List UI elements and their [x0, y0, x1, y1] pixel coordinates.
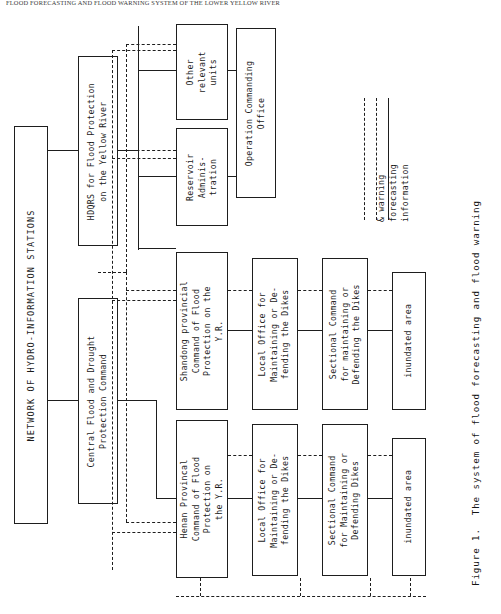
- box-sectional-command-henan: Sectional Command for Maintaining or Def…: [322, 424, 368, 576]
- box-sectional-command-shandong-label: Sectional Command for maintaining or Def…: [328, 284, 363, 384]
- box-network-of-hydro-information-stations: NETWORK OF HYDRO-INFORMATION STATIONS: [14, 126, 48, 524]
- box-inundated-area-henan: inundated area: [392, 438, 426, 576]
- warning-branch-shandong: [112, 300, 176, 301]
- connector-central-to-trunk: [118, 400, 156, 401]
- connector-shandong-to-local-office: [228, 330, 252, 331]
- warning-branch-henan: [112, 532, 176, 533]
- connector-sectional-to-inundated-henan: [368, 498, 392, 499]
- forecast-local-to-sectional-henan: [298, 455, 322, 456]
- forecast-sectional-to-inundated-shandong: [368, 290, 392, 291]
- connector-henan-to-local-office: [228, 498, 252, 499]
- box-inundated-area-shandong-label: inundated area: [403, 304, 415, 378]
- box-local-office-shandong-label: Local Office for Maintaining or De- fend…: [258, 286, 293, 381]
- box-hdqrs-label: HDQRS for Flood Protection on the Yellow…: [87, 82, 110, 219]
- connector-local-office-to-sectional-shandong: [298, 330, 322, 331]
- warning-drop-henan: [370, 578, 371, 596]
- connector-trunk-to-henan: [156, 498, 176, 499]
- box-reservoir-admin-label: Reservoir Adminis- tration: [185, 153, 220, 201]
- legend: information forecasting & warning: [344, 96, 424, 232]
- legend-label-warning: & warning: [376, 174, 386, 222]
- forecast-branch-henan: [126, 522, 176, 523]
- box-shandong-command-label: Shandong provincial Command of Flood Pro…: [179, 281, 225, 381]
- box-reservoir-administration: Reservoir Adminis- tration: [176, 128, 228, 226]
- forecast-branch-shandong: [126, 290, 176, 291]
- forecast-branch-other-units: [126, 44, 176, 45]
- connector-network-to-hdqrs: [48, 150, 78, 151]
- connector-reservoir-to-operation: [228, 176, 236, 177]
- running-head: FLOOD FORECASTING AND FLOOD WARNING SYST…: [6, 0, 280, 6]
- forecast-shandong-to-local: [228, 290, 252, 291]
- connector-trunk-to-other-units: [138, 70, 176, 71]
- box-local-office-shandong: Local Office for Maintaining or De- fend…: [252, 258, 298, 410]
- trunk-central-vertical: [156, 400, 157, 498]
- figure-page: FLOOD FORECASTING AND FLOOD WARNING SYST…: [0, 0, 501, 614]
- box-local-office-henan-label: Local Office for Maintaining or De- fend…: [258, 452, 293, 547]
- warning-branch-reservoir: [112, 158, 176, 159]
- warning-branch-top: [112, 50, 176, 51]
- forecast-henan-to-local: [228, 455, 252, 456]
- box-other-relevant-units: Other relevant units: [176, 24, 228, 120]
- box-inundated-area-shandong: inundated area: [392, 272, 426, 410]
- warning-trunk-vertical: [112, 50, 113, 570]
- connector-local-office-to-sectional-henan: [298, 498, 322, 499]
- box-network-label: NETWORK OF HYDRO-INFORMATION STATIONS: [25, 209, 38, 441]
- box-inundated-area-henan-label: inundated area: [403, 470, 415, 544]
- box-henan-command-label: Henan Provincal Command of Flood Protect…: [179, 457, 225, 541]
- connector-other-units-to-operation: [228, 70, 236, 71]
- warning-drop-shandong: [300, 578, 301, 596]
- forecast-trunk-lower-vertical: [126, 272, 127, 522]
- forecast-sectional-to-inundated-henan: [368, 455, 392, 456]
- box-operation-office-label: Operation Commanding Office: [245, 60, 268, 166]
- legend-label-forecasting: forecasting: [388, 164, 398, 222]
- connector-trunk-to-reservoir: [138, 176, 176, 177]
- box-shandong-provincial-command: Shandong provincial Command of Flood Pro…: [176, 252, 228, 410]
- legend-label-information: information: [400, 164, 410, 222]
- warning-drop-inundated: [410, 578, 411, 596]
- connector-network-to-central: [48, 400, 78, 401]
- box-local-office-henan: Local Office for Maintaining or De- fend…: [252, 424, 298, 576]
- box-operation-commanding-office: Operation Commanding Office: [236, 28, 276, 198]
- warning-bottom-rail: [176, 596, 426, 597]
- box-central-command-label: Central Flood and Drought Protection Com…: [87, 335, 110, 467]
- figure-caption: Figure 1. The system of flood forecastin…: [470, 200, 481, 586]
- trunk-hdqrs-vertical: [138, 26, 139, 250]
- box-other-units-label: Other relevant units: [185, 51, 220, 93]
- box-sectional-command-shandong: Sectional Command for maintaining or Def…: [322, 258, 368, 410]
- legend-line-dash-dot: [364, 98, 365, 220]
- box-henan-provincial-command: Henan Provincal Command of Flood Protect…: [176, 420, 228, 578]
- box-sectional-command-henan-label: Sectional Command for Maintaining or Def…: [328, 452, 363, 547]
- connector-sectional-to-inundated-shandong: [368, 330, 392, 331]
- connector-trunk-to-shandong: [138, 248, 176, 249]
- forecast-local-to-sectional-shandong: [298, 290, 322, 291]
- forecast-branch-reservoir: [126, 150, 176, 151]
- warning-drop-command: [200, 578, 201, 596]
